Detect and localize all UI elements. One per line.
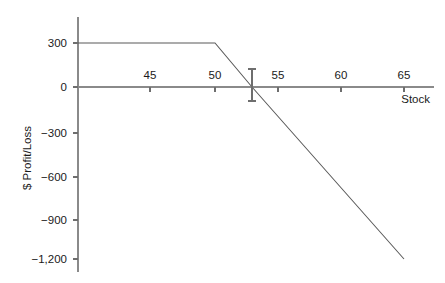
series-line-profit-loss: [78, 43, 404, 259]
y-tick-label-neg1200: −1,200: [32, 253, 68, 265]
y-axis-title: $ Profit/Loss: [21, 126, 33, 190]
y-tick-label-neg900: −900: [41, 214, 67, 226]
y-tick-label-neg600: −600: [41, 171, 67, 183]
y-tick-label-0: 0: [61, 81, 67, 93]
chart-canvas: 300 0 −300 −600 −900 −1,200 45 50 55 60 …: [0, 0, 445, 283]
x-tick-label-55: 55: [272, 69, 285, 81]
x-tick-label-45: 45: [144, 69, 157, 81]
x-tick-label-60: 60: [335, 69, 348, 81]
x-tick-label-50: 50: [209, 69, 222, 81]
x-tick-label-65: 65: [398, 69, 411, 81]
x-axis-title: Stock: [401, 93, 430, 105]
y-tick-label-300: 300: [48, 37, 67, 49]
payoff-chart: 300 0 −300 −600 −900 −1,200 45 50 55 60 …: [0, 0, 445, 283]
y-tick-label-neg300: −300: [41, 127, 67, 139]
